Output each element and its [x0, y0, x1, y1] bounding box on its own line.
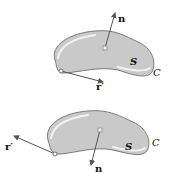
top-figure: n S C r′ [54, 13, 161, 92]
surface-bottom [47, 111, 148, 155]
normal-label-bottom: n [95, 163, 103, 174]
curve-point-bottom [53, 152, 57, 156]
surface-label-top: S [130, 56, 137, 67]
curve-point-top [59, 69, 63, 73]
surface-label-bottom: S [125, 141, 132, 152]
curve-label-top: C [153, 67, 161, 78]
normal-base-point-bottom [98, 128, 102, 132]
normal-label-top: n [118, 13, 126, 24]
bottom-figure: r′ S C n [5, 111, 160, 174]
tangent-label-bottom: r′ [5, 141, 13, 152]
surface-top [54, 31, 154, 76]
tangent-label-top: r′ [96, 81, 104, 92]
normal-base-point-top [103, 46, 107, 50]
curve-label-bottom: C [152, 137, 160, 148]
diagram-canvas: n S C r′ r′ S C n [0, 0, 173, 174]
